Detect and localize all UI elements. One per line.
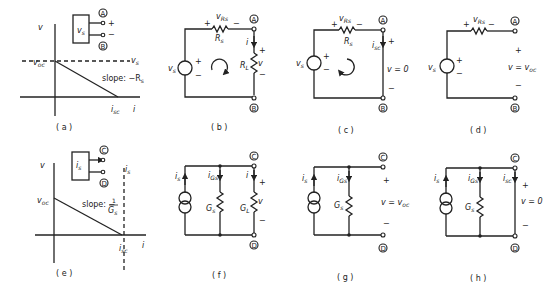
minus-sign: − (259, 70, 266, 79)
minus-sign: − (383, 219, 390, 228)
node-d-label: D (252, 242, 257, 250)
node-b-label: B (101, 43, 106, 51)
slope-numerator: 1 (112, 197, 116, 204)
box-label: vs (77, 26, 85, 36)
plus-sign: + (515, 46, 522, 55)
node-a-label: A (252, 16, 257, 24)
igs-label: iGs (468, 174, 478, 184)
panel-a: v voc vs slope: −Rs isc i vs A B + − ( a… (20, 9, 144, 132)
plus-sign: + (204, 19, 211, 28)
node-a-label: A (381, 17, 386, 25)
caption-f: ( f ) (212, 271, 226, 280)
resistor-voltage-label: vRs (216, 12, 228, 22)
resistor-rs (471, 28, 487, 34)
minus-sign: − (233, 19, 240, 28)
voltage-source (307, 56, 321, 70)
vs-label: vs (131, 56, 139, 66)
isc-label: isc (111, 105, 120, 115)
is-label: is (302, 174, 307, 184)
panel-g: C D is iGs Gs + v = voc − ( g ) (302, 153, 410, 282)
panel-e: v voc is slope: − 1 Gs isc i is C D ( e … (35, 146, 146, 278)
is-label: is (175, 172, 180, 182)
resistor-rl (251, 53, 257, 73)
node-d-label: D (381, 245, 386, 253)
voltage-equation: v = voc (381, 198, 410, 208)
rl-label: RL (240, 61, 249, 71)
current-label: i (246, 171, 249, 180)
node-a-label: A (101, 10, 106, 18)
resistor-gs (217, 192, 223, 212)
voltage-equation: v = 0 (387, 65, 409, 74)
current-label: i (246, 38, 249, 47)
plus-sign: + (195, 57, 202, 66)
caption-d: ( d ) (470, 126, 486, 135)
is-label: is (125, 165, 130, 175)
resistor-gl (251, 192, 257, 212)
minus-sign: − (323, 65, 330, 74)
resistor-rs (339, 27, 355, 33)
gs-label: Gs (206, 204, 215, 214)
caption-e: ( e ) (56, 269, 72, 278)
node-c-label: C (252, 153, 257, 161)
caption-c: ( c ) (338, 126, 354, 135)
slope-denominator: Gs (108, 206, 117, 216)
voltage-equation: v = 0 (521, 197, 543, 206)
terminal-a (101, 21, 105, 25)
plus-sign: + (331, 20, 338, 29)
node-c-label: C (102, 147, 107, 155)
voltage-label: v (258, 59, 263, 68)
rs-label: Rs (344, 37, 353, 47)
igs-label: iGs (208, 171, 218, 181)
resistor-gs (477, 197, 483, 217)
resistor-gs (346, 196, 352, 216)
box-label: is (76, 161, 81, 171)
caption-b: ( b ) (211, 123, 227, 132)
resistor-voltage-label: vRs (339, 14, 351, 24)
loop-arrow-icon (340, 59, 354, 75)
node-c-label: C (513, 155, 518, 163)
source-label: vs (168, 64, 176, 74)
minus-sign: − (488, 20, 495, 29)
node-b-label: B (252, 105, 257, 113)
panel-d: A B vs + − + vRs − + v = voc − ( d ) (428, 15, 537, 135)
minus-sign: − (259, 216, 266, 225)
resistor-rs (212, 26, 228, 32)
voltage-source (178, 61, 192, 75)
node-c-label: C (381, 154, 386, 162)
gs-label: Gs (334, 201, 343, 211)
minus-sign: − (356, 20, 363, 29)
panel-f: C D is iGs Gs GL i + v − ( f ) (175, 152, 266, 280)
plus-sign: + (388, 37, 395, 46)
plus-sign: + (522, 181, 529, 190)
igs-label: iGs (337, 174, 347, 184)
caption-a: ( a ) (56, 123, 72, 132)
source-label: vs (428, 63, 436, 73)
isc-label: isc (503, 174, 512, 184)
panel-c: A B vs + − + vRs − Rs isc + v = 0 − ( c … (296, 14, 409, 135)
i-axis-label: i (142, 241, 145, 250)
plus-sign: + (323, 52, 330, 61)
resistor-voltage-label: vRs (473, 15, 485, 25)
source-label: vs (296, 59, 304, 69)
panel-b: A B vs + − + vRs − Rs i + v − RL ( b ) (168, 12, 266, 132)
minus-sign: − (522, 221, 529, 230)
voltage-equation: v = voc (508, 63, 537, 73)
v-axis-label: v (38, 23, 43, 32)
plus-sign: + (259, 46, 266, 55)
rs-label: Rs (215, 34, 224, 44)
gs-label: Gs (465, 203, 474, 213)
plus-sign: + (259, 178, 266, 187)
terminal-b (101, 33, 105, 37)
minus-sign: − (456, 69, 463, 78)
i-axis-label: i (133, 105, 136, 114)
node-a-label: A (513, 18, 518, 26)
node-b-label: B (381, 105, 386, 113)
caption-g: ( g ) (337, 273, 353, 282)
isc-label: isc (372, 41, 381, 51)
minus-sign: − (108, 30, 115, 39)
node-d-label: D (513, 245, 518, 253)
plus-sign: + (383, 176, 390, 185)
voc-label: voc (37, 196, 49, 206)
plus-sign: + (108, 19, 115, 28)
panel-h: C D is iGs Gs isc + v = 0 − ( h ) (434, 154, 543, 283)
